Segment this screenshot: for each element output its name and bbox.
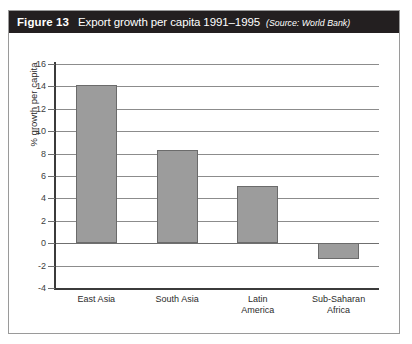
y-axis-tick-label: 2: [16, 216, 46, 226]
y-axis-tick: [48, 266, 55, 267]
figure-source: (Source: World Bank): [266, 18, 350, 28]
gridline: [56, 266, 379, 267]
plot-area: [56, 64, 379, 288]
x-axis-tick-label: Sub-SaharanAfrica: [291, 294, 387, 316]
gridline: [56, 64, 379, 65]
figure-header: Figure 13 Export growth per capita 1991–…: [9, 11, 400, 33]
y-axis-tick: [48, 288, 55, 289]
bar: [157, 150, 198, 243]
figure-card: Figure 13 Export growth per capita 1991–…: [8, 10, 400, 334]
bar: [318, 243, 359, 259]
y-axis-tick: [48, 154, 55, 155]
x-axis-tick-label-line: Africa: [291, 305, 387, 316]
y-axis-tick: [48, 64, 55, 65]
x-axis-tick-label-line: Sub-Saharan: [291, 294, 387, 305]
y-axis-tick-label: 6: [16, 171, 46, 181]
y-axis-tick: [48, 131, 55, 132]
y-axis-tick: [48, 109, 55, 110]
y-axis-tick: [48, 198, 55, 199]
y-axis-tick-label: -2: [16, 261, 46, 271]
y-axis-tick: [48, 221, 55, 222]
y-axis-tick-label: 4: [16, 193, 46, 203]
bar: [76, 85, 117, 243]
y-axis-tick: [48, 86, 55, 87]
bar: [237, 186, 278, 243]
y-axis-tick-label: -4: [16, 283, 46, 293]
y-axis-title: % growth per capita: [28, 45, 39, 165]
x-axis-line: [54, 288, 379, 290]
y-axis-tick: [48, 176, 55, 177]
figure-caption: Export growth per capita 1991–1995: [78, 16, 260, 28]
y-axis-tick-label: 0: [16, 238, 46, 248]
y-axis-tick: [48, 243, 55, 244]
